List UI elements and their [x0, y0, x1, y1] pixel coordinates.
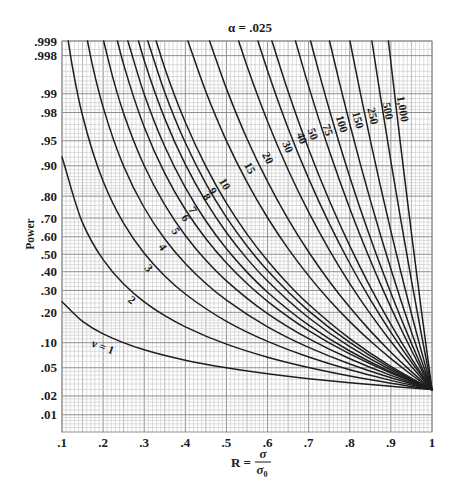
y-tick-label: .90: [41, 158, 57, 173]
chart-title: α = .025: [228, 20, 272, 35]
y-tick-label: .99: [41, 86, 58, 101]
x-tick-label: .9: [386, 435, 396, 450]
y-tick-label: .30: [41, 283, 57, 298]
y-tick-label: .05: [41, 360, 58, 375]
x-tick-label: .4: [180, 435, 190, 450]
denominator-subscript: 0: [264, 470, 268, 479]
y-tick-label: .20: [41, 305, 57, 320]
y-tick-label: .80: [41, 189, 57, 204]
y-tick-label: .10: [41, 335, 57, 350]
y-tick-label: .999: [34, 34, 57, 49]
x-tick-label: .3: [139, 435, 149, 450]
y-axis-label: Power: [24, 218, 36, 249]
y-tick-label: .60: [41, 229, 57, 244]
x-tick-label: .8: [345, 435, 355, 450]
y-tick-label: .02: [41, 388, 57, 403]
x-axis-label-lhs: R =: [231, 455, 251, 470]
y-tick-label: .70: [41, 211, 57, 226]
power-chart: α = .025 ν = 123456789101520304050751001…: [0, 0, 460, 503]
y-tick-label: .95: [41, 133, 58, 148]
x-axis-label-numerator: σ: [259, 446, 267, 461]
x-tick-label: .5: [222, 435, 232, 450]
y-tick-label: .50: [41, 247, 57, 262]
y-tick-label: .98: [41, 105, 58, 120]
x-tick-label: .2: [98, 435, 108, 450]
x-tick-label: 1: [429, 435, 436, 450]
x-tick-label: .7: [304, 435, 314, 450]
x-tick-label: .1: [57, 435, 67, 450]
y-tick-label: .01: [41, 407, 57, 422]
y-tick-label: .998: [34, 48, 57, 63]
y-tick-label: .40: [41, 264, 57, 279]
